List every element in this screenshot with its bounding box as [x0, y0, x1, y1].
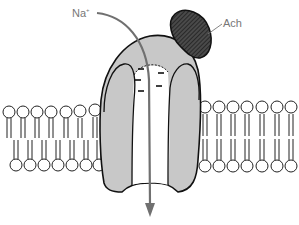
- right-upper-leaflet: [199, 101, 297, 136]
- lipid: [31, 106, 43, 138]
- left-lower-leaflet: [10, 140, 105, 171]
- na-charge: +: [86, 7, 90, 13]
- right-lower-leaflet: [199, 139, 297, 172]
- lipid: [227, 139, 239, 172]
- lipid: [213, 139, 225, 172]
- ach-label: Ach: [223, 17, 242, 29]
- lipid: [38, 140, 50, 171]
- left-lipid-bilayer: [3, 104, 105, 171]
- lipid: [271, 139, 283, 172]
- lipid: [74, 105, 86, 138]
- lipid: [60, 106, 72, 138]
- lipid: [271, 101, 283, 136]
- na-label: Na+: [72, 7, 90, 19]
- lipid: [285, 139, 297, 172]
- arrowhead-icon: [145, 203, 155, 217]
- lipid: [17, 106, 29, 138]
- lipid: [24, 140, 36, 171]
- lipid: [285, 101, 297, 136]
- lipid: [227, 101, 239, 136]
- ion-channel-diagram: Ach Na+: [0, 0, 299, 225]
- lipid: [256, 101, 268, 136]
- lipid: [66, 140, 78, 171]
- lipid: [10, 140, 22, 171]
- na-ion-symbol: Na: [72, 7, 87, 19]
- right-lipid-bilayer: [199, 101, 297, 172]
- lipid: [241, 139, 253, 172]
- lipid: [45, 106, 57, 138]
- lipid: [213, 101, 225, 136]
- lipid: [3, 106, 15, 138]
- left-upper-leaflet: [3, 104, 101, 138]
- lipid: [241, 101, 253, 136]
- lipid: [52, 140, 64, 171]
- lipid: [256, 139, 268, 172]
- lipid: [199, 139, 211, 172]
- lipid: [89, 104, 101, 138]
- lipid: [80, 140, 92, 171]
